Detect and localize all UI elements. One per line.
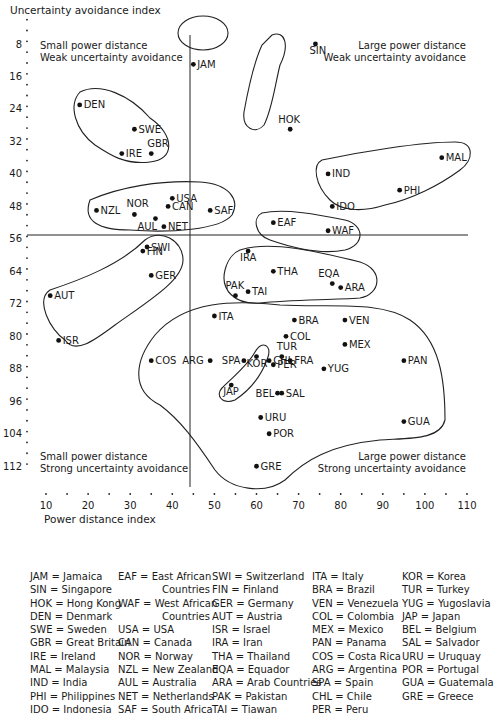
- y-axis-dot: [26, 225, 28, 227]
- legend-column-2: EAF = East AfricanCountriesWAF = West Af…: [118, 570, 218, 716]
- data-point-label: PHI: [404, 185, 421, 196]
- data-point-dot: [343, 342, 348, 347]
- point-ira: IRA: [240, 249, 256, 263]
- legend-entry: GER = Germany: [212, 597, 322, 610]
- point-cos: COS: [149, 355, 177, 366]
- data-point-label: YUG: [327, 363, 349, 374]
- x-axis-dot: [382, 493, 384, 495]
- x-axis-dot: [45, 493, 47, 495]
- scatter-plot: Uncertainty avoidance index Power distan…: [0, 0, 482, 571]
- data-point-dot: [161, 224, 166, 229]
- y-axis-dot: [26, 192, 28, 194]
- legend-entry: FIN = Finland: [212, 583, 322, 596]
- data-point-dot: [439, 155, 444, 160]
- data-point-dot: [119, 151, 124, 156]
- data-point-dot: [397, 188, 402, 193]
- cluster-jam: [178, 16, 228, 50]
- legend-column-3: SWI = SwitzerlandFIN = FinlandGER = Germ…: [212, 570, 322, 716]
- x-axis-dot: [256, 493, 258, 495]
- point-phi: PHI: [397, 185, 420, 196]
- data-point-label: ITA: [218, 311, 233, 322]
- data-point-dot: [140, 249, 145, 254]
- legend-entry: ARG = Argentina: [312, 663, 401, 676]
- point-pak: PAK: [225, 280, 244, 298]
- y-axis-dot: [26, 366, 28, 368]
- legend-entry: SAF = South Africa: [118, 703, 218, 716]
- data-point-dot: [233, 293, 238, 298]
- legend-entry: SPA = Spain: [312, 676, 401, 689]
- y-axis-dot: [26, 138, 28, 140]
- data-point-label: EQA: [318, 268, 339, 279]
- y-tick-label: 80: [9, 331, 22, 342]
- x-axis-dot: [403, 493, 405, 495]
- data-point-dot: [132, 127, 137, 132]
- y-axis-dot: [26, 203, 28, 205]
- x-axis-dot: [340, 493, 342, 495]
- point-swe: SWE: [132, 124, 161, 135]
- y-axis-dot: [26, 301, 28, 303]
- y-tick-label: 56: [9, 233, 22, 244]
- data-point-label: IND: [332, 168, 350, 179]
- point-fin: FIN: [140, 246, 163, 257]
- point-isr: ISR: [56, 335, 79, 346]
- data-point-label: DEN: [84, 99, 106, 110]
- data-point-dot: [401, 358, 406, 363]
- legend-entry: BRA = Brazil: [312, 583, 401, 596]
- x-axis-dot: [150, 493, 152, 495]
- y-axis-dot: [26, 236, 28, 238]
- x-tick-label: 80: [334, 500, 347, 511]
- legend-entry: EQA = Equador: [212, 663, 322, 676]
- y-axis-dot: [26, 290, 28, 292]
- legend-entry: IRE = Ireland: [30, 650, 130, 663]
- x-axis-dot: [424, 493, 426, 495]
- y-axis-dot: [26, 463, 28, 465]
- y-axis-dot: [26, 171, 28, 173]
- point-sal: SAL: [279, 388, 305, 399]
- x-tick-label: 110: [457, 500, 476, 511]
- legend-entry: MAL = Malaysia: [30, 663, 130, 676]
- x-tick-label: 30: [124, 500, 137, 511]
- legend-entry: Countries: [118, 610, 218, 623]
- x-axis-dot: [466, 493, 468, 495]
- x-axis-dot: [319, 493, 321, 495]
- legend-entry: ARA = Arab Countries: [212, 676, 322, 689]
- point-tha: THA: [271, 266, 298, 277]
- x-tick-label: 40: [166, 500, 179, 511]
- legend-entry: IRA = Iran: [212, 636, 322, 649]
- data-point-dot: [338, 285, 343, 290]
- data-point-label: HOK: [278, 114, 300, 125]
- data-point-label: BEL: [256, 388, 275, 399]
- legend-entry: JAP = Japan: [402, 610, 494, 623]
- data-point-label: ISR: [63, 335, 79, 346]
- data-point-dot: [330, 281, 335, 286]
- data-point-label: MEX: [349, 339, 371, 350]
- y-axis-dot: [26, 268, 28, 270]
- legend-entry: PAN = Panama: [312, 636, 401, 649]
- quadrant-top-right-line1: Large power distance: [358, 40, 466, 51]
- data-point-label: NZL: [101, 205, 121, 216]
- legend-entry: CHL = Chile: [312, 690, 401, 703]
- legend-entry: JAM = Jamaica: [30, 570, 130, 583]
- data-point-label: EAF: [277, 217, 296, 228]
- legend-entry: NET = Netherlands: [118, 690, 218, 703]
- x-axis-dot: [108, 493, 110, 495]
- data-point-dot: [149, 358, 154, 363]
- data-point-label: PER: [277, 359, 296, 370]
- point-jam: JAM: [191, 59, 216, 70]
- data-point-label: URU: [265, 412, 287, 423]
- data-points: JAMSINHOKDENSWEGBRIREMALINDPHIIDOUSACANN…: [48, 42, 467, 472]
- point-bel: BEL: [256, 388, 280, 399]
- legend-entry: AUL = Australia: [118, 676, 218, 689]
- y-axis-dot: [26, 409, 28, 411]
- y-axis-dot: [26, 160, 28, 162]
- data-point-dot: [208, 358, 213, 363]
- data-point-label: VEN: [349, 315, 370, 326]
- y-tick-label: 96: [9, 396, 22, 407]
- x-axis-dot: [214, 493, 216, 495]
- y-axis: 81624324048566472808896104112: [3, 19, 28, 472]
- y-tick-label: 72: [9, 298, 22, 309]
- x-axis-dot: [87, 493, 89, 495]
- y-axis-dot: [26, 257, 28, 259]
- point-den: DEN: [77, 99, 105, 110]
- point-aul: AUL: [137, 216, 157, 231]
